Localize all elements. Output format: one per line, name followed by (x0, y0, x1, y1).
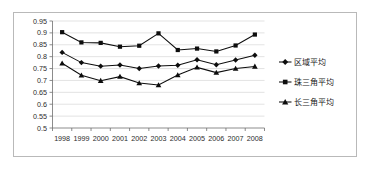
x-tick-label: 2008 (247, 134, 263, 143)
marker-triangle (59, 60, 65, 65)
marker-triangle (117, 74, 123, 79)
marker-triangle (194, 65, 200, 70)
y-tick-label: 0.95 (33, 17, 47, 26)
legend-item-3[interactable]: 长三角平均 (279, 97, 334, 107)
x-tick-label: 2007 (228, 134, 244, 143)
x-tick-label: 2005 (189, 134, 205, 143)
x-tick-label: 1998 (54, 134, 70, 143)
marker-diamond (98, 63, 103, 68)
y-tick-marks-group (50, 21, 53, 128)
marker-square (118, 45, 122, 49)
marker-diamond (282, 59, 288, 65)
x-tick-label: 2006 (208, 134, 224, 143)
x-tick-label: 2000 (93, 134, 109, 143)
legend-item-1[interactable]: 区域平均 (279, 57, 326, 67)
marker-diamond (214, 62, 219, 67)
y-tick-label: 0.65 (33, 88, 47, 97)
marker-square (233, 43, 237, 47)
marker-square (99, 41, 103, 45)
marker-square (253, 32, 257, 36)
marker-square (156, 31, 160, 35)
marker-square (79, 40, 83, 44)
marker-diamond (137, 66, 142, 71)
marker-diamond (59, 50, 64, 55)
marker-square (137, 44, 141, 48)
data-series-group (59, 30, 257, 87)
marker-square (176, 48, 180, 52)
y-tick-label: 0.7 (37, 76, 47, 85)
y-tick-label: 0.75 (33, 64, 47, 73)
y-tick-label: 0.5 (37, 124, 47, 133)
marker-diamond (175, 63, 180, 68)
legend-item-2[interactable]: 珠三角平均 (279, 77, 334, 87)
marker-square (60, 30, 64, 34)
legend-label: 区域平均 (294, 57, 326, 67)
y-tick-label: 0.8 (37, 52, 47, 61)
chart-legend: 区域平均珠三角平均长三角平均 (279, 57, 334, 107)
marker-triangle (79, 72, 85, 77)
x-tick-label: 2004 (170, 134, 186, 143)
chart-figure: 0.950.90.850.80.750.70.650.60.550.5 1998… (0, 0, 368, 171)
x-tick-label: 1999 (73, 134, 89, 143)
marker-diamond (156, 63, 161, 68)
marker-diamond (117, 62, 122, 67)
marker-diamond (252, 53, 257, 58)
y-tick-labels-group: 0.950.90.850.80.750.70.650.60.550.5 (33, 17, 47, 133)
y-tick-label: 0.55 (33, 112, 47, 121)
legend-label: 长三角平均 (294, 97, 334, 107)
marker-diamond (194, 57, 199, 62)
y-tick-label: 0.9 (37, 28, 47, 37)
x-tick-label: 2003 (151, 134, 167, 143)
x-tick-marks-group (53, 128, 265, 131)
marker-diamond (233, 57, 238, 62)
y-tick-label: 0.6 (37, 100, 47, 109)
x-tick-label: 2002 (131, 134, 147, 143)
marker-triangle (252, 64, 258, 69)
series-1 (59, 50, 257, 72)
marker-diamond (79, 60, 84, 65)
x-tick-label: 2001 (112, 134, 128, 143)
legend-label: 珠三角平均 (294, 77, 334, 87)
chart-plot-area: 0.950.90.850.80.750.70.650.60.550.5 1998… (0, 0, 368, 171)
marker-square (195, 46, 199, 50)
marker-square (214, 49, 218, 53)
marker-square (283, 80, 288, 85)
series-2 (60, 30, 257, 53)
y-tick-label: 0.85 (33, 40, 47, 49)
x-tick-labels-group: 1998199920002001200220032004200520062007… (54, 134, 263, 143)
